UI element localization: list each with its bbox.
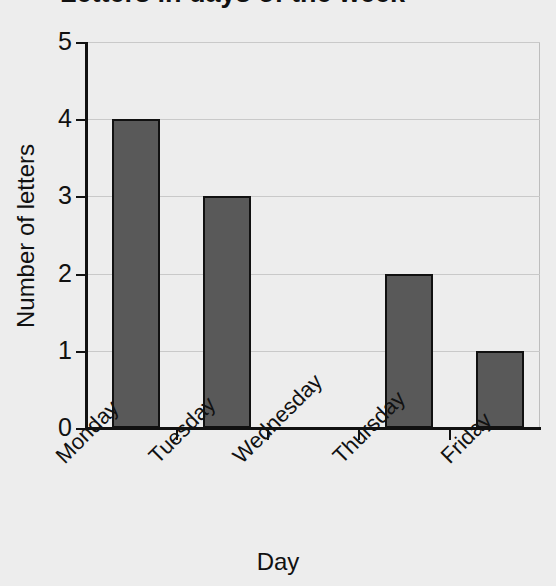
bar-tuesday[interactable] bbox=[203, 196, 251, 428]
plot-area bbox=[85, 42, 540, 428]
y-axis-title: Number of letters bbox=[12, 71, 40, 401]
x-axis-title: Day bbox=[0, 548, 556, 576]
bar-monday[interactable] bbox=[112, 119, 160, 428]
gridline-5 bbox=[85, 42, 540, 43]
y-tick-3 bbox=[76, 196, 86, 198]
bar-chart: 5 4 3 2 1 0 Monday Tuesday Wednesday Thu… bbox=[0, 0, 556, 586]
y-tick-1 bbox=[76, 351, 86, 353]
y-axis-line bbox=[85, 42, 88, 429]
y-tick-label-2: 2 bbox=[44, 261, 72, 286]
y-tick-label-5: 5 bbox=[44, 29, 72, 54]
y-tick-4 bbox=[76, 119, 86, 121]
y-tick-5 bbox=[76, 42, 86, 44]
y-tick-label-3: 3 bbox=[44, 183, 72, 208]
y-tick-label-1: 1 bbox=[44, 338, 72, 363]
y-tick-2 bbox=[76, 274, 86, 276]
y-tick-label-4: 4 bbox=[44, 106, 72, 131]
